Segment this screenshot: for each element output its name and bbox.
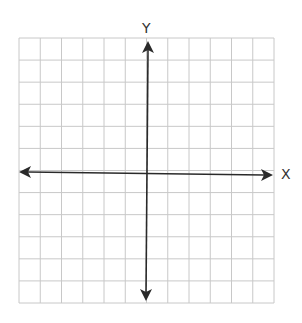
coordinate-plane <box>0 0 302 323</box>
y-axis-label: Y <box>142 20 151 36</box>
x-axis-label: X <box>281 166 291 182</box>
